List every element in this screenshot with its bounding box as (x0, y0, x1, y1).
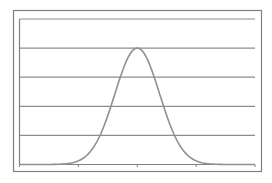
bell-curve-chart (0, 0, 272, 183)
chart-container (0, 0, 272, 183)
y-gridlines (20, 19, 256, 135)
chart-outer-frame (14, 11, 262, 172)
